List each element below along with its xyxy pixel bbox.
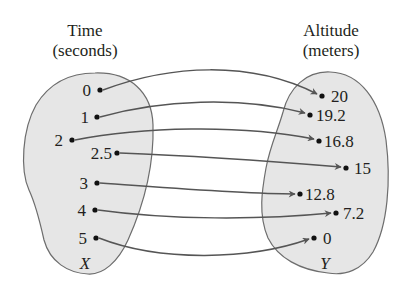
domain-label-3: 3 [80,174,89,193]
range-dot-16.8 [316,138,321,143]
range-label-19.2: 19.2 [316,106,346,125]
range-label-0: 0 [323,229,332,248]
range-label-12.8: 12.8 [305,185,335,204]
domain-label-2: 2 [55,131,64,150]
domain-label-0: 0 [83,81,92,100]
domain-dot-0 [97,87,102,92]
domain-dot-1 [94,114,99,119]
range-dot-0 [311,235,316,240]
domain-dot-3 [94,180,99,185]
domain-set-blob [24,73,154,274]
range-title-line1: Altitude [303,21,359,40]
range-dot-15 [343,165,348,170]
range-label-20: 20 [331,87,348,106]
range-dot-12.8 [297,191,302,196]
range-label-15: 15 [354,159,371,178]
range-label-16.8: 16.8 [324,132,354,151]
function-mapping-diagram: Time (seconds) Altitude (meters) 0 1 2 2… [0,0,411,287]
domain-dot-2 [69,137,74,142]
domain-dot-5 [93,235,98,240]
domain-label-1: 1 [81,108,90,127]
range-dot-7.2 [333,210,338,215]
domain-label-4: 4 [78,201,87,220]
domain-dot-4 [92,207,97,212]
domain-dot-2.5 [114,150,119,155]
domain-title-line2: (seconds) [52,41,117,60]
range-set-name: Y [320,254,331,273]
domain-title-line1: Time [67,21,102,40]
range-title-line2: (meters) [303,41,360,60]
range-dot-20 [319,93,324,98]
domain-set-name: X [79,254,91,273]
domain-label-5: 5 [79,229,88,248]
domain-label-2.5: 2.5 [91,144,112,163]
range-dot-19.2 [307,112,312,117]
range-label-7.2: 7.2 [343,204,364,223]
